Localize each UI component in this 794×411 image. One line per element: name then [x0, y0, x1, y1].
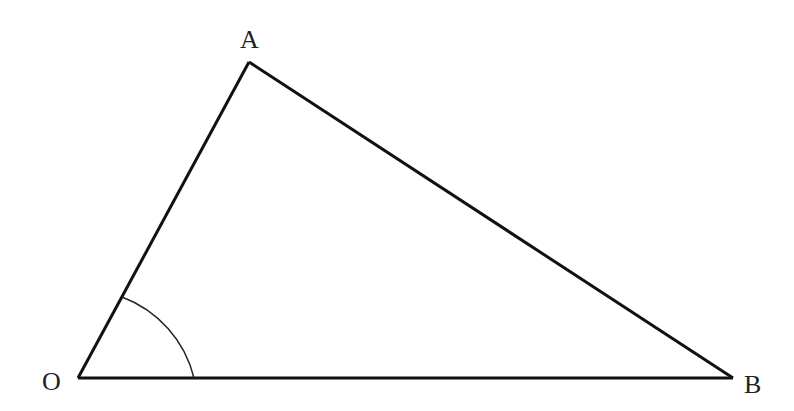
angle-arc-o [122, 297, 194, 378]
triangle-diagram: A O B [0, 0, 794, 411]
label-o: O [42, 367, 61, 396]
side-oa [78, 62, 249, 378]
label-b: B [744, 370, 761, 399]
label-a: A [240, 25, 259, 54]
side-ab [249, 62, 733, 378]
